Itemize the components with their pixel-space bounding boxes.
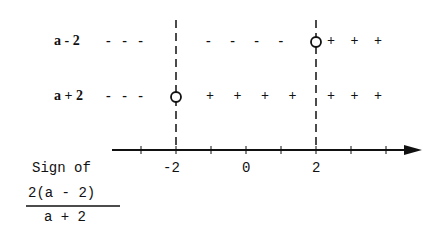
row-label-a-plus-2: a + 2 [54,88,83,104]
row2-signs-mid: + + + + [206,88,304,104]
row1-signs-mid: - - - - [206,33,291,49]
arrow-icon [404,145,422,155]
caption-numerator: 2(a - 2) [28,185,95,201]
tick-label-neg2: -2 [163,160,180,176]
row-label-a-minus-2: a - 2 [54,33,80,49]
row1-signs-left: - - - [106,33,147,49]
tick-label-0: 0 [242,160,250,176]
open-circle-neg2 [171,92,181,102]
tick-label-2: 2 [312,160,320,176]
row2-signs-right: + + + [327,88,388,104]
caption-denominator: a + 2 [44,209,86,225]
open-circle-2 [311,37,321,47]
caption-sign-of: Sign of [32,160,91,176]
row2-signs-left: - - - [106,88,147,104]
row1-signs-right: + + + [327,33,388,49]
